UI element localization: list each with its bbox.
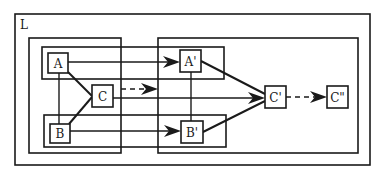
node-b-prime: B' xyxy=(181,121,203,143)
node-b-label: B xyxy=(56,127,65,141)
frame-label: L xyxy=(20,18,28,32)
node-c-double-prime-label: C" xyxy=(330,91,345,105)
node-a-label: A xyxy=(53,57,63,71)
arrowhead-icon xyxy=(310,91,327,103)
node-a-prime-label: A' xyxy=(184,55,197,69)
node-c: C xyxy=(92,85,113,107)
node-c-label: C xyxy=(98,90,107,104)
node-b-prime-label: B' xyxy=(186,126,198,140)
morphism-diagram: L A C B A' B' xyxy=(0,0,383,174)
edge-bprime-cprime xyxy=(203,101,265,132)
node-b: B xyxy=(50,124,70,143)
edge-a-c xyxy=(68,72,92,96)
node-c-prime-label: C' xyxy=(269,91,281,105)
node-c-double-prime: C" xyxy=(327,86,348,108)
node-a-prime: A' xyxy=(180,50,201,72)
edge-aprime-cprime xyxy=(201,61,265,94)
edge-b-c xyxy=(69,97,92,124)
node-c-prime: C' xyxy=(265,86,286,108)
node-a: A xyxy=(48,53,68,73)
